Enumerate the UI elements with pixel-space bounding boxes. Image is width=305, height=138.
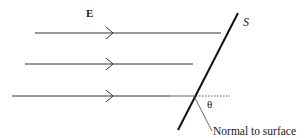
angle-label: θ xyxy=(207,98,212,110)
field-label: E xyxy=(86,7,93,19)
surface-label: S xyxy=(243,15,249,29)
field-line-1 xyxy=(35,27,221,39)
field-surface-diagram: E S θ Normal to surface xyxy=(0,0,305,138)
field-line-2 xyxy=(25,58,193,70)
normal-label: Normal to surface xyxy=(213,125,296,137)
surface-line xyxy=(178,13,238,130)
